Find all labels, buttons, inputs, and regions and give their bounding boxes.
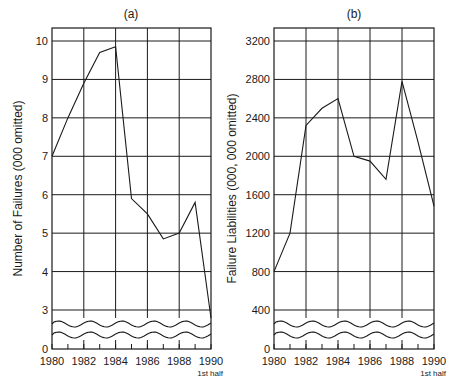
y-tick-label: 0 xyxy=(264,343,270,355)
failures-charts: 34567891001980198219841986198819901st ha… xyxy=(0,0,457,389)
x-tick-label: 1990 xyxy=(422,355,446,367)
y-tick-label: 2400 xyxy=(246,112,270,124)
x-tick-label: 1984 xyxy=(326,355,350,367)
x-tick-label: 1982 xyxy=(294,355,318,367)
x-tick-label: 1990 xyxy=(199,355,223,367)
x-tick-label: 1988 xyxy=(167,355,191,367)
y-tick-label: 8 xyxy=(42,112,48,124)
plot-frame xyxy=(52,28,211,349)
y-axis-label: Number of Failures (000 omitted) xyxy=(11,100,25,276)
y-tick-label: 5 xyxy=(42,227,48,239)
x-tick-label: 1984 xyxy=(103,355,127,367)
y-tick-label: 400 xyxy=(252,304,270,316)
x-tick-label: 1980 xyxy=(262,355,286,367)
y-tick-label: 2800 xyxy=(246,73,270,85)
x-tick-label: 1980 xyxy=(40,355,64,367)
chart-panel-b: 4008001200160020002400280032000198019821… xyxy=(225,7,447,378)
y-tick-label: 10 xyxy=(36,35,48,47)
plot-frame xyxy=(274,28,434,349)
y-tick-label: 9 xyxy=(42,73,48,85)
y-tick-label: 2000 xyxy=(246,150,270,162)
x-tick-note: 1st half xyxy=(420,369,447,378)
x-tick-note: 1st half xyxy=(197,369,224,378)
y-tick-label: 7 xyxy=(42,150,48,162)
y-tick-label: 3200 xyxy=(246,35,270,47)
x-tick-label: 1986 xyxy=(135,355,159,367)
chart-title: (b) xyxy=(347,7,362,21)
y-tick-label: 3 xyxy=(42,304,48,316)
data-series-line xyxy=(52,47,211,318)
data-series-line xyxy=(274,81,434,271)
y-tick-label: 1600 xyxy=(246,189,270,201)
chart-panel-a: 34567891001980198219841986198819901st ha… xyxy=(11,7,224,378)
y-axis-label: Failure Liabilities (000, 000 omitted) xyxy=(225,93,239,283)
x-tick-label: 1982 xyxy=(72,355,96,367)
x-tick-label: 1988 xyxy=(390,355,414,367)
y-tick-label: 6 xyxy=(42,189,48,201)
chart-title: (a) xyxy=(124,7,139,21)
y-tick-label: 800 xyxy=(252,266,270,278)
y-tick-label: 4 xyxy=(42,266,48,278)
x-tick-label: 1986 xyxy=(358,355,382,367)
y-tick-label: 1200 xyxy=(246,227,270,239)
y-tick-label: 0 xyxy=(42,343,48,355)
